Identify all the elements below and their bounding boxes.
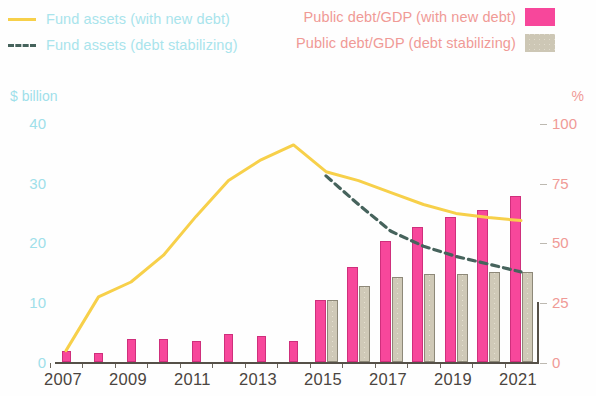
chart-container: Fund assets (with new debt) Fund assets …: [0, 0, 596, 396]
line-series-layer: [0, 0, 596, 396]
fund-assets-new-debt-line: [66, 145, 521, 351]
fund-assets-debt-stabilizing-line: [326, 176, 521, 272]
